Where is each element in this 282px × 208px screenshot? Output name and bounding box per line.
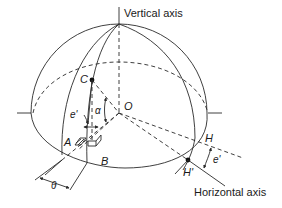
label-alpha: α <box>95 105 101 116</box>
vertical-axis-label: Vertical axis <box>124 7 183 19</box>
equator-front <box>31 113 207 168</box>
label-O: O <box>124 100 133 112</box>
horizontal-axis-label: Horizontal axis <box>194 186 267 198</box>
label-A: A <box>63 136 71 148</box>
label-B: B <box>101 155 108 167</box>
line-O-to-H <box>119 113 243 158</box>
line-A-to-B-ext <box>45 160 62 175</box>
label-theta: θ <box>51 180 57 191</box>
label-e-prime-left: e' <box>70 109 79 120</box>
label-C: C <box>80 73 88 85</box>
meridian-right-inner <box>119 24 195 138</box>
label-H: H <box>205 132 213 144</box>
line-B-base <box>70 163 87 190</box>
label-e-prime-right: e' <box>213 154 222 165</box>
alpha-arc <box>105 98 107 122</box>
line-O-to-B <box>78 113 119 150</box>
e-prime-arc-right <box>204 148 211 168</box>
hemisphere-diagram: C O e' α A B θ H H' e' Vertical axis Hor… <box>0 0 282 208</box>
line-C-to-A <box>88 80 92 124</box>
line-O-to-H-prime <box>119 113 188 160</box>
label-H-prime: H' <box>183 166 194 178</box>
latitude-circle-dashed <box>33 62 207 113</box>
